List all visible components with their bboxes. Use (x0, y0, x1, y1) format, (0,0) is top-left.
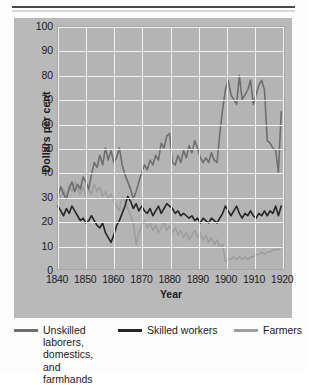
x-tick-label: 1910 (243, 273, 265, 285)
legend-item-skilled-workers: Skilled workers (118, 324, 226, 336)
gridline-vertical (86, 27, 87, 269)
chart-panel: Dollars per cent 0102030405060708090100 … (14, 18, 292, 318)
x-tick-label: 1880 (158, 273, 180, 285)
legend-swatch-unskilled (14, 329, 38, 332)
gridline-vertical (142, 27, 143, 269)
y-tick-label: 20 (13, 215, 53, 227)
legend-swatch-skilled-workers (118, 329, 142, 332)
legend-item-unskilled: Unskilled laborers, domestics, and farmh… (14, 324, 110, 385)
legend-item-farmers: Farmers (234, 324, 320, 336)
x-tick-label: 1860 (102, 273, 124, 285)
x-tick-label: 1870 (130, 273, 152, 285)
y-tick-label: 50 (13, 142, 53, 154)
x-tick-label: 1840 (46, 273, 68, 285)
y-tick-label: 90 (13, 44, 53, 56)
x-axis-label: Year (57, 288, 285, 300)
x-tick-label: 1890 (187, 273, 209, 285)
y-tick-label: 70 (13, 93, 53, 105)
top-divider-rule-shadow (12, 10, 295, 12)
y-tick-label: 30 (13, 191, 53, 203)
y-axis-ticks: 0102030405060708090100 (14, 26, 53, 270)
gridline-vertical (255, 27, 256, 269)
gridline-vertical (283, 27, 284, 269)
y-tick-label: 80 (13, 69, 53, 81)
legend-label-farmers: Farmers (263, 324, 302, 336)
y-tick-label: 60 (13, 118, 53, 130)
gridline-vertical (199, 27, 200, 269)
x-tick-label: 1920 (271, 273, 293, 285)
gridline-vertical (114, 27, 115, 269)
top-divider-rule (12, 6, 295, 8)
clipped-caption (60, 0, 250, 4)
gridline-vertical (58, 27, 59, 269)
x-tick-label: 1900 (215, 273, 237, 285)
y-tick-label: 100 (13, 20, 53, 32)
x-axis-ticks: 184018501860187018801890190019101920 (57, 273, 285, 287)
x-tick-label: 1850 (74, 273, 96, 285)
legend-label-unskilled: Unskilled laborers, domestics, and farmh… (43, 324, 110, 385)
gridline-vertical (171, 27, 172, 269)
legend-swatch-farmers (234, 329, 258, 332)
gridline-vertical (227, 27, 228, 269)
y-tick-label: 40 (13, 166, 53, 178)
legend-label-skilled-workers: Skilled workers (147, 324, 218, 336)
plot-area (57, 26, 285, 270)
legend: Unskilled laborers, domestics, and farmh… (14, 324, 302, 372)
y-tick-label: 10 (13, 240, 53, 252)
